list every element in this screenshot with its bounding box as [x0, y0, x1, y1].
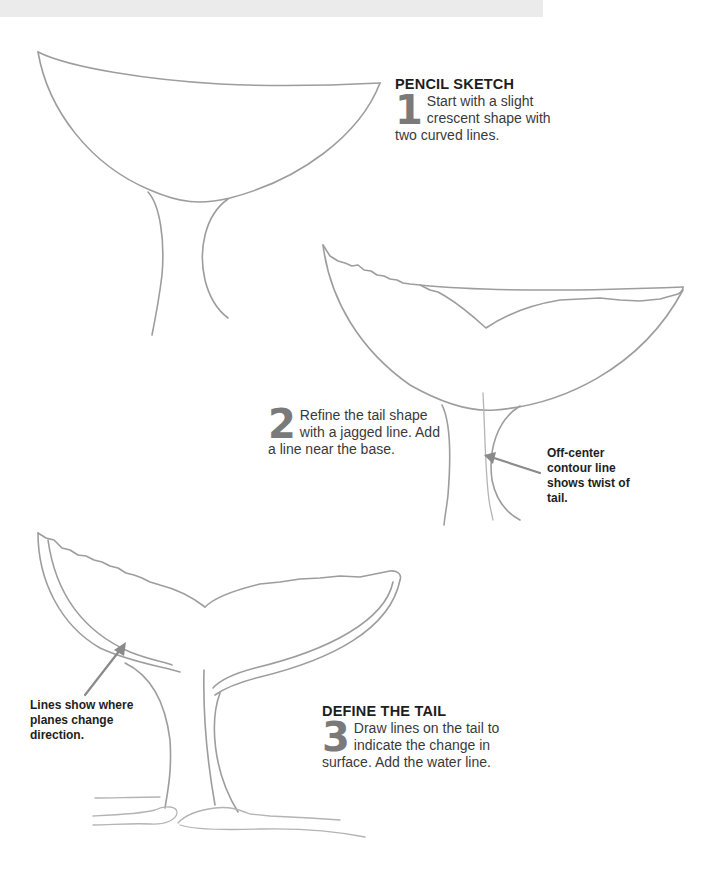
step-3-number: 3: [322, 721, 350, 753]
step-3-define-the-tail: DEFINE THE TAIL 3 Draw lines on the tail…: [322, 703, 522, 771]
step-3-text: Draw lines on the tail to indicate the c…: [322, 720, 522, 771]
step-2-number: 2: [268, 408, 296, 440]
whale-tail-sketch-stage-3: [38, 533, 401, 837]
step-1-pencil-sketch: PENCIL SKETCH 1 Start with a slight cres…: [395, 76, 555, 144]
step-1-heading: PENCIL SKETCH: [395, 76, 555, 93]
step-2-refine: 2 Refine the tail shape with a jagged li…: [268, 407, 443, 458]
step-3-heading: DEFINE THE TAIL: [322, 703, 522, 720]
annotation-off-center-contour: Off-center contour line shows twist of t…: [547, 446, 637, 506]
step-1-number: 1: [395, 94, 423, 126]
whale-tail-sketch-stage-1: [38, 52, 380, 335]
annotation-plane-lines: Lines show where planes change direction…: [30, 698, 140, 743]
